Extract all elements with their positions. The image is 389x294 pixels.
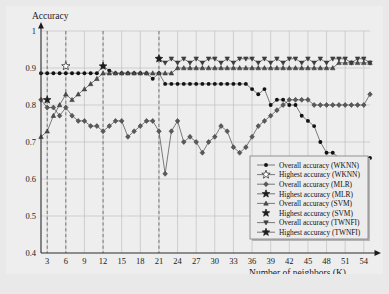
- y-tick-label: 1: [32, 26, 36, 36]
- triangle-down-marker: [225, 57, 230, 61]
- diamond-marker: [330, 103, 335, 108]
- circle-marker: [45, 71, 49, 75]
- diamond-marker: [119, 118, 124, 123]
- circle-marker: [256, 92, 260, 96]
- circle-marker: [331, 151, 335, 155]
- circle-marker: [188, 82, 192, 86]
- triangle-down-marker: [324, 61, 329, 65]
- triangle-up-marker: [64, 92, 69, 96]
- circle-marker: [225, 82, 229, 86]
- legend-item-label: Highest accuracy (MLR): [279, 190, 353, 199]
- x-axis-arrow: [375, 250, 382, 256]
- circle-marker: [163, 82, 167, 86]
- circle-marker: [58, 71, 62, 75]
- circle-marker: [64, 71, 68, 75]
- circle-marker: [318, 140, 322, 144]
- circle-marker: [169, 82, 173, 86]
- x-tick-label: 45: [304, 256, 313, 266]
- diamond-marker: [318, 103, 323, 108]
- circle-marker: [325, 151, 329, 155]
- circle-marker: [182, 82, 186, 86]
- legend-item-label: Overall accuracy (WKNN): [279, 161, 360, 170]
- x-tick-label: 12: [99, 256, 108, 266]
- series-overall-accuracy-wknn: [39, 64, 372, 160]
- circle-marker: [89, 71, 93, 75]
- diamond-marker: [200, 150, 205, 155]
- diamond-marker: [169, 129, 174, 134]
- x-tick-label: 9: [82, 256, 86, 266]
- legend-item-label: Highest accuracy (SVM): [279, 209, 353, 218]
- x-tick-label: 51: [341, 256, 350, 266]
- y-tick-label: 0.7: [25, 137, 36, 147]
- triangle-down-marker: [281, 61, 286, 65]
- x-tick-label: 48: [322, 256, 331, 266]
- x-tick-label: 21: [155, 256, 164, 266]
- x-tick-label: 33: [229, 256, 238, 266]
- circle-marker: [83, 71, 87, 75]
- triangle-down-marker: [188, 61, 193, 65]
- circle-marker: [281, 98, 285, 102]
- x-tick-label: 36: [248, 256, 257, 266]
- x-tick-label: 42: [285, 256, 294, 266]
- diamond-marker: [293, 97, 298, 102]
- triangle-down-marker: [181, 57, 186, 61]
- y-tick-label: 0.8: [25, 100, 36, 110]
- x-tick-label: 27: [192, 256, 201, 266]
- circle-marker: [250, 87, 254, 91]
- diamond-marker: [343, 103, 348, 108]
- circle-marker: [244, 82, 248, 86]
- diamond-marker: [361, 103, 366, 108]
- y-tick-label: 0.9: [25, 63, 36, 73]
- series-overall-accuracy-svm: [39, 60, 373, 138]
- circle-marker: [200, 82, 204, 86]
- circle-marker: [238, 82, 242, 86]
- circle-marker: [176, 82, 180, 86]
- triangle-down-marker: [299, 61, 304, 65]
- triangle-down-marker: [231, 61, 236, 65]
- diamond-marker: [324, 103, 329, 108]
- x-tick-label: 39: [266, 256, 275, 266]
- legend-item-label: Overall accuracy (TWNFI): [279, 218, 360, 227]
- circle-marker: [151, 77, 155, 81]
- triangle-up-marker: [82, 87, 87, 91]
- circle-marker: [263, 87, 267, 91]
- circle-marker: [207, 82, 211, 86]
- x-tick-label: 18: [136, 256, 145, 266]
- triangle-down-marker: [163, 61, 168, 65]
- triangle-down-marker: [194, 57, 199, 61]
- triangle-up-marker: [51, 113, 56, 117]
- x-tick-label: 3: [45, 256, 49, 266]
- triangle-down-marker: [312, 61, 317, 65]
- diamond-marker: [349, 103, 354, 108]
- diamond-marker: [368, 92, 373, 97]
- triangle-down-marker: [175, 61, 180, 65]
- x-tick-label: 24: [173, 256, 182, 266]
- triangle-down-marker: [200, 61, 205, 65]
- diamond-marker: [355, 103, 360, 108]
- triangle-down-marker: [318, 57, 323, 61]
- circle-marker: [95, 71, 99, 75]
- triangle-up-marker: [76, 92, 81, 96]
- circle-marker: [213, 82, 217, 86]
- diamond-marker: [250, 134, 255, 139]
- triangle-down-marker: [219, 61, 224, 65]
- y-tick-label: 0.4: [25, 248, 36, 258]
- triangle-down-marker: [169, 57, 174, 61]
- diamond-marker: [175, 118, 180, 123]
- x-tick-label: 54: [360, 256, 369, 266]
- x-tick-label: 15: [117, 256, 126, 266]
- circle-marker: [264, 163, 268, 167]
- circle-marker: [51, 71, 55, 75]
- circle-marker: [76, 71, 80, 75]
- triangle-down-marker: [275, 57, 280, 61]
- legend-item-label: Overall accuracy (SVM): [279, 199, 353, 208]
- triangle-down-marker: [262, 57, 267, 61]
- triangle-up-marker: [88, 82, 93, 86]
- circle-marker: [300, 114, 304, 118]
- plot-surface: 0.40.50.60.70.80.91369121518212427303336…: [6, 6, 383, 274]
- diamond-marker: [157, 129, 162, 134]
- y-axis-title: Accuracy: [32, 11, 69, 21]
- triangle-down-marker: [306, 57, 311, 61]
- circle-marker: [219, 82, 223, 86]
- diamond-marker: [163, 171, 168, 176]
